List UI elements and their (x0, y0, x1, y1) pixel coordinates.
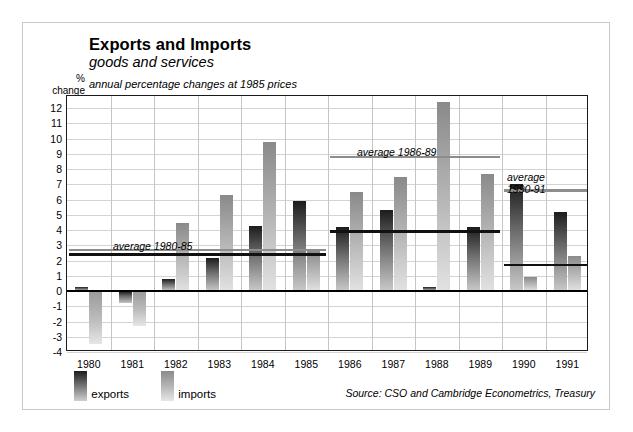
bar-imp-1984 (263, 142, 276, 291)
bar-exp-1981 (119, 291, 132, 303)
gridline-v (198, 96, 199, 350)
y-tick-label: -4 (53, 347, 62, 357)
average-label: average1990-91 (507, 171, 546, 195)
bar-exp-1990 (510, 184, 523, 291)
bar-imp-1982 (176, 223, 189, 292)
gridline-v (459, 96, 460, 350)
y-tick-label: -2 (53, 317, 62, 327)
gridline-h (67, 154, 587, 155)
x-tick-label-1986: 1986 (328, 358, 372, 370)
bar-imp-1991 (568, 256, 581, 291)
bar-imp-1986 (350, 192, 363, 291)
average-label: average 1986-89 (357, 146, 436, 158)
gridline-h (67, 200, 587, 201)
y-tick-label: 10 (50, 134, 62, 144)
gridline-v (546, 96, 547, 350)
gridline-v (241, 96, 242, 350)
gridline-v (502, 96, 503, 350)
x-tick-label-1981: 1981 (110, 358, 154, 370)
y-tick-label: 3 (56, 240, 62, 250)
gridline-h (67, 337, 587, 338)
gridline-v (154, 96, 155, 350)
zero-baseline (67, 290, 587, 293)
y-tick-label: -1 (53, 301, 62, 311)
bar-exp-1989 (467, 227, 480, 291)
y-tick-label: 5 (56, 210, 62, 220)
gridline-v (415, 96, 416, 350)
bar-imp-1988 (437, 102, 450, 291)
x-tick-label-1983: 1983 (197, 358, 241, 370)
exports-swatch-icon (74, 371, 87, 401)
gridline-v (285, 96, 286, 350)
average-line-exports-1990 (504, 264, 587, 267)
y-tick-label: 0 (56, 286, 62, 296)
average-line-imports-1980 (69, 249, 326, 251)
average-line-exports-1986 (330, 230, 500, 233)
y-tick-label: 6 (56, 195, 62, 205)
y-tick-label: 1 (56, 271, 62, 281)
gridline-h (67, 230, 587, 231)
chart-figure: Exports and Imports goods and services a… (22, 22, 610, 410)
bar-exp-1986 (336, 227, 349, 291)
gridline-h (67, 123, 587, 124)
bar-exp-1987 (380, 210, 393, 291)
average-line-exports-1980 (69, 253, 326, 256)
y-tick-label: 12 (50, 103, 62, 113)
x-tick-label-1991: 1991 (545, 358, 589, 370)
chart-title: Exports and Imports (89, 35, 251, 54)
bar-imp-1983 (220, 195, 233, 291)
y-tick-label: 9 (56, 149, 62, 159)
legend-item-imports: imports (161, 371, 216, 401)
imports-swatch-icon (161, 371, 174, 401)
y-tick-label: -3 (53, 332, 62, 342)
y-axis-caption: % change (33, 73, 85, 96)
gridline-h (67, 139, 587, 140)
bar-imp-1987 (394, 177, 407, 291)
gridline-h (67, 215, 587, 216)
y-tick-label: 4 (56, 225, 62, 235)
x-tick-label-1982: 1982 (154, 358, 198, 370)
x-tick-label-1989: 1989 (458, 358, 502, 370)
x-tick-label-1980: 1980 (67, 358, 111, 370)
source-note: Source: CSO and Cambridge Econometrics, … (345, 387, 595, 399)
y-axis-caption-line1: % (33, 73, 85, 85)
gridline-h (67, 261, 587, 262)
x-tick-label-1984: 1984 (241, 358, 285, 370)
x-tick-label-1988: 1988 (415, 358, 459, 370)
bar-imp-1985 (307, 251, 320, 291)
legend-label-imports: imports (178, 387, 216, 401)
gridline-h (67, 108, 587, 109)
x-tick-label-1987: 1987 (371, 358, 415, 370)
gridline-v (111, 96, 112, 350)
bar-exp-1984 (249, 226, 262, 292)
gridline-h (67, 352, 587, 353)
bar-exp-1983 (206, 258, 219, 292)
chart-note: annual percentage changes at 1985 prices (89, 78, 297, 90)
plot-area: 1211109876543210-1-2-3-4 average 1980-85… (66, 95, 588, 351)
chart-subtitle: goods and services (89, 54, 214, 70)
bar-imp-1981 (133, 291, 146, 326)
y-tick-label: 7 (56, 179, 62, 189)
gridline-h (67, 276, 587, 277)
legend-item-exports: exports (74, 371, 129, 401)
y-tick-label: 11 (51, 118, 62, 128)
y-tick-label: 2 (56, 256, 62, 266)
average-label: average 1980-85 (113, 240, 192, 252)
x-tick-label-1990: 1990 (502, 358, 546, 370)
bar-exp-1991 (554, 212, 567, 291)
gridline-v (328, 96, 329, 350)
gridline-v (372, 96, 373, 350)
bar-exp-1985 (293, 201, 306, 291)
legend-label-exports: exports (91, 387, 129, 401)
x-tick-label-1985: 1985 (284, 358, 328, 370)
bar-imp-1980 (89, 291, 102, 344)
y-tick-label: 8 (56, 164, 62, 174)
